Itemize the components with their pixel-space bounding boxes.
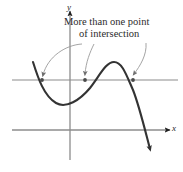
leader-arrow-middle bbox=[85, 44, 94, 74]
intersection-point-3 bbox=[131, 78, 135, 82]
leader-arrow-right bbox=[134, 43, 146, 74]
leader-arrow-left bbox=[43, 44, 82, 75]
intersection-point-2 bbox=[83, 78, 87, 82]
graph-figure: More than one point of intersection y x bbox=[0, 0, 183, 172]
cubic-curve bbox=[33, 62, 150, 149]
intersection-point-1 bbox=[40, 78, 44, 82]
figure-canvas bbox=[0, 0, 183, 172]
